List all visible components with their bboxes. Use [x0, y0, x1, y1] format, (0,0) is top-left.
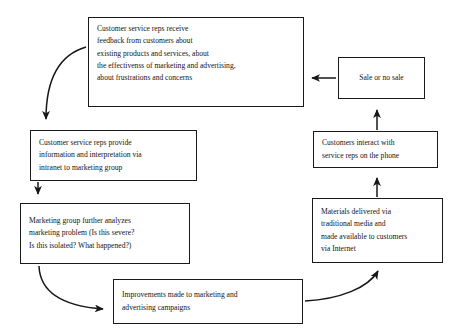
- node-materials-delivered: Materials delivered via traditional medi…: [312, 198, 443, 263]
- edge-improvements-to-materials: [305, 271, 378, 301]
- node-improvements-made: Improvements made to marketing and adver…: [113, 279, 303, 324]
- node-marketing-analyzes: Marketing group further analyzes marketi…: [20, 203, 190, 264]
- node-customers-interact: Customers interact with service reps on …: [313, 131, 438, 168]
- flowchart-canvas: Customer service reps receive feedback f…: [0, 0, 468, 334]
- edge-feedback-to-reps-provide: [46, 47, 86, 119]
- edge-analyzes-to-improvements: [39, 266, 103, 309]
- node-feedback-received: Customer service reps receive feedback f…: [88, 17, 304, 107]
- node-sale-or-no-sale: Sale or no sale: [338, 57, 425, 99]
- node-reps-provide-info: Customer service reps provide informatio…: [30, 130, 197, 181]
